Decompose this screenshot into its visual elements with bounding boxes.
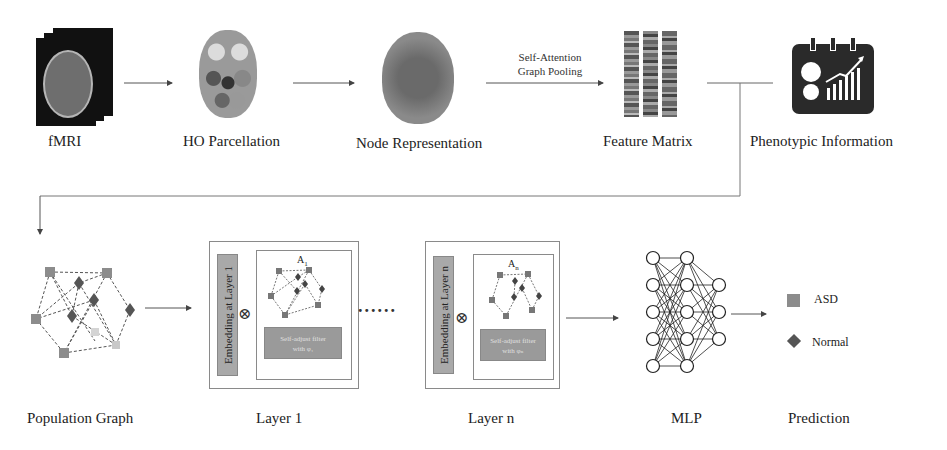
legend-normal-label: Normal <box>812 335 849 350</box>
prediction-label: Prediction <box>788 410 850 427</box>
mlp-network-diagram <box>0 0 947 450</box>
legend-asd-label: ASD <box>814 292 838 307</box>
asd-square-icon <box>787 294 800 307</box>
mlp-label: MLP <box>671 410 702 427</box>
